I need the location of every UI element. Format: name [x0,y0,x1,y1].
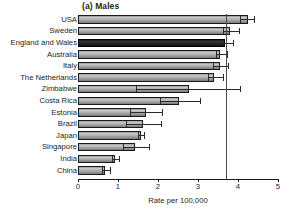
chart-row: Japan [0,130,305,142]
chart-row: USA [0,14,305,26]
error-bar-cap-low [221,40,222,46]
category-label: Estonia [51,109,77,117]
error-bar-cap-low [102,167,103,173]
category-label: The Netherlands [20,74,77,82]
error-bar-cap-low [223,28,224,34]
error-bar-line [112,159,119,160]
bar [78,27,230,35]
error-bar-cap-high [161,121,162,127]
error-bar-cap-high [144,132,145,138]
error-bar-cap-high [200,98,201,104]
error-bar-cap-high [223,74,224,80]
bar [78,62,220,70]
error-bar-cap-low [208,74,209,80]
error-bar-cap-low [138,132,139,138]
category-label: USA [61,16,77,24]
x-axis-line [78,179,278,180]
error-bar-cap-low [130,109,131,115]
error-bar-cap-high [227,51,228,57]
chart-container: (a) Males USASwedenEngland and WalesAust… [0,0,305,215]
chart-row: Singapore [0,142,305,154]
error-bar-cap-high [240,86,241,92]
error-bar-line [130,112,162,113]
chart-row: Brazil [0,118,305,130]
error-bar-cap-low [216,51,217,57]
chart-row: Sweden [0,26,305,38]
error-bar-line [102,170,110,171]
bar [78,131,141,139]
category-label: Brazil [58,120,77,128]
category-label: Singapore [42,144,77,152]
bar [78,39,225,47]
chart-row: India [0,153,305,165]
x-axis-title: Rate per 100,000 [148,196,207,205]
error-bar-cap-low [123,144,124,150]
error-bar-cap-low [112,156,113,162]
x-tick-label: 4 [236,182,240,191]
category-label: Italy [63,62,77,70]
error-bar-line [136,89,240,90]
error-bar-line [160,101,200,102]
error-bar-cap-high [239,28,240,34]
error-bar-cap-high [110,167,111,173]
error-bar-cap-high [254,16,255,22]
category-label: England and Wales [11,39,77,47]
error-bar-cap-low [213,63,214,69]
error-bar-line [221,43,233,44]
error-bar-cap-high [119,156,120,162]
chart-row: England and Wales [0,37,305,49]
error-bar-cap-low [160,98,161,104]
chart-row: The Netherlands [0,72,305,84]
error-bar-line [208,77,223,78]
error-bar-line [123,147,149,148]
error-bar-cap-low [240,16,241,22]
category-label: China [57,167,77,175]
bar [78,155,115,163]
chart-row: Zimbabwe [0,84,305,96]
error-bar-cap-high [149,144,150,150]
category-label: Costa Rica [39,97,77,105]
error-bar-cap-high [162,109,163,115]
chart-row: Australia [0,49,305,61]
bar [78,73,214,81]
reference-line [226,14,227,179]
chart-row: China [0,165,305,177]
bar [78,15,248,23]
chart-title: (a) Males [82,1,119,11]
chart-row: Costa Rica [0,95,305,107]
error-bar-cap-low [136,86,137,92]
error-bar-cap-low [126,121,127,127]
x-tick-label: 0 [76,182,80,191]
category-label: Zimbabwe [42,86,77,94]
bar [78,50,220,58]
x-tick-label: 3 [196,182,200,191]
error-bar-line [126,124,161,125]
category-label: Australia [47,51,77,59]
category-label: India [60,155,77,163]
x-tick-label: 1 [116,182,120,191]
chart-row: Estonia [0,107,305,119]
x-tick-label: 2 [156,182,160,191]
category-label: Japan [56,132,77,140]
x-tick-label: 5 [276,182,280,191]
error-bar-line [240,19,254,20]
plot-area: USASwedenEngland and WalesAustraliaItaly… [0,14,305,179]
chart-row: Italy [0,60,305,72]
category-label: Sweden [49,28,77,36]
error-bar-cap-high [233,40,234,46]
error-bar-cap-high [228,63,229,69]
